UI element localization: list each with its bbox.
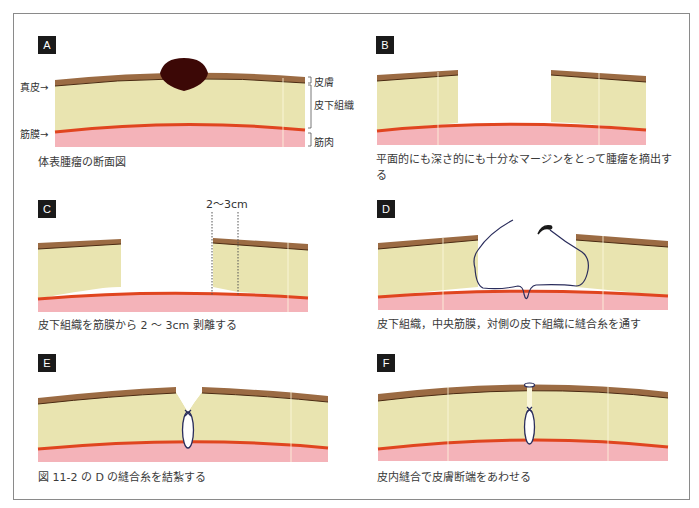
panel-a: A 真皮→ 筋膜→ 皮膚 皮下組織 筋肉 体表腫瘤の断面図 <box>0 0 350 180</box>
tied-suture-loop <box>183 412 194 448</box>
panel-c: C 2～3cm 皮下組織を筋膜から 2 ～ 3cm 剥離する <box>0 190 350 350</box>
panel-f-caption: 皮内縫合で皮膚断端をあわせる <box>377 470 531 486</box>
panel-a-caption: 体表腫瘤の断面図 <box>38 155 126 171</box>
suture-needle <box>538 226 552 234</box>
subcutaneous-left <box>377 74 458 131</box>
panel-d-caption: 皮下組織，中央筋膜，対側の皮下組織に縫合糸を通す <box>377 317 641 333</box>
panel-e-caption: 図 11-2 の D の縫合糸を結紮する <box>38 470 206 486</box>
suture-thread <box>474 220 588 299</box>
label-skin: 皮膚 <box>314 74 334 89</box>
panel-e: E 図 11-2 の D の縫合糸を結紮する <box>0 340 350 508</box>
measure-label: 2～3cm <box>206 195 248 211</box>
intradermal-suture <box>525 383 535 387</box>
label-dermis: 真皮→ <box>20 79 48 94</box>
label-subcutaneous: 皮下組織 <box>314 97 354 112</box>
panel-d: D 皮下組織，中央筋膜，対側の皮下組織に縫合糸を通す <box>350 190 699 350</box>
subcutaneous-right <box>213 242 308 298</box>
panel-a-cross-section <box>0 0 350 180</box>
panel-b-caption: 平面的にも深さ的にも十分なマージンをとって腫瘤を摘出する <box>376 152 676 184</box>
label-fascia: 筋膜→ <box>20 126 48 141</box>
panel-f: F 皮内縫合で皮膚断端をあわせる <box>350 340 699 508</box>
panel-b: B 平面的にも深さ的にも十分なマージンをとって腫瘤を摘出する <box>350 20 699 190</box>
tied-suture-loop <box>525 410 535 444</box>
subcutaneous-left <box>378 240 478 297</box>
subcutaneous-left <box>38 243 121 299</box>
panel-c-caption: 皮下組織を筋膜から 2 ～ 3cm 剥離する <box>38 318 237 334</box>
label-muscle: 筋肉 <box>314 134 334 149</box>
subcutaneous-right <box>576 239 668 296</box>
